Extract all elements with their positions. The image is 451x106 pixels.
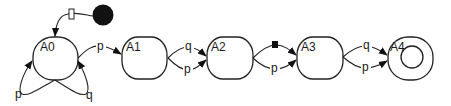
state-a1-label: A1 <box>126 40 141 54</box>
state-a3-label: A3 <box>301 40 316 54</box>
state-a1[interactable]: A1 <box>122 37 167 79</box>
state-diagram: A0 A1 A2 A3 A4 p q p q p p q p <box>0 0 451 106</box>
label-a1-a2-p: p <box>184 62 191 76</box>
state-a0-label: A0 <box>40 40 55 54</box>
label-a0-a1: p <box>97 39 104 53</box>
state-a2-label: A2 <box>211 40 226 54</box>
label-a2-a3-p: p <box>271 61 278 75</box>
state-a0[interactable]: A0 <box>33 37 78 80</box>
label-a1-a2-q: q <box>185 39 192 53</box>
open-rectangle-marker <box>69 9 74 19</box>
label-self-p: p <box>15 87 22 101</box>
filled-square-marker <box>272 41 278 48</box>
initial-state-dot <box>93 5 114 26</box>
label-self-q: q <box>86 88 93 102</box>
state-a2[interactable]: A2 <box>207 37 253 79</box>
state-a4[interactable]: A4 <box>388 37 433 80</box>
label-a3-a4-p: p <box>362 60 369 74</box>
label-a3-a4-q: q <box>363 38 370 52</box>
state-a3[interactable]: A3 <box>297 37 343 79</box>
state-a4-label: A4 <box>390 40 405 54</box>
